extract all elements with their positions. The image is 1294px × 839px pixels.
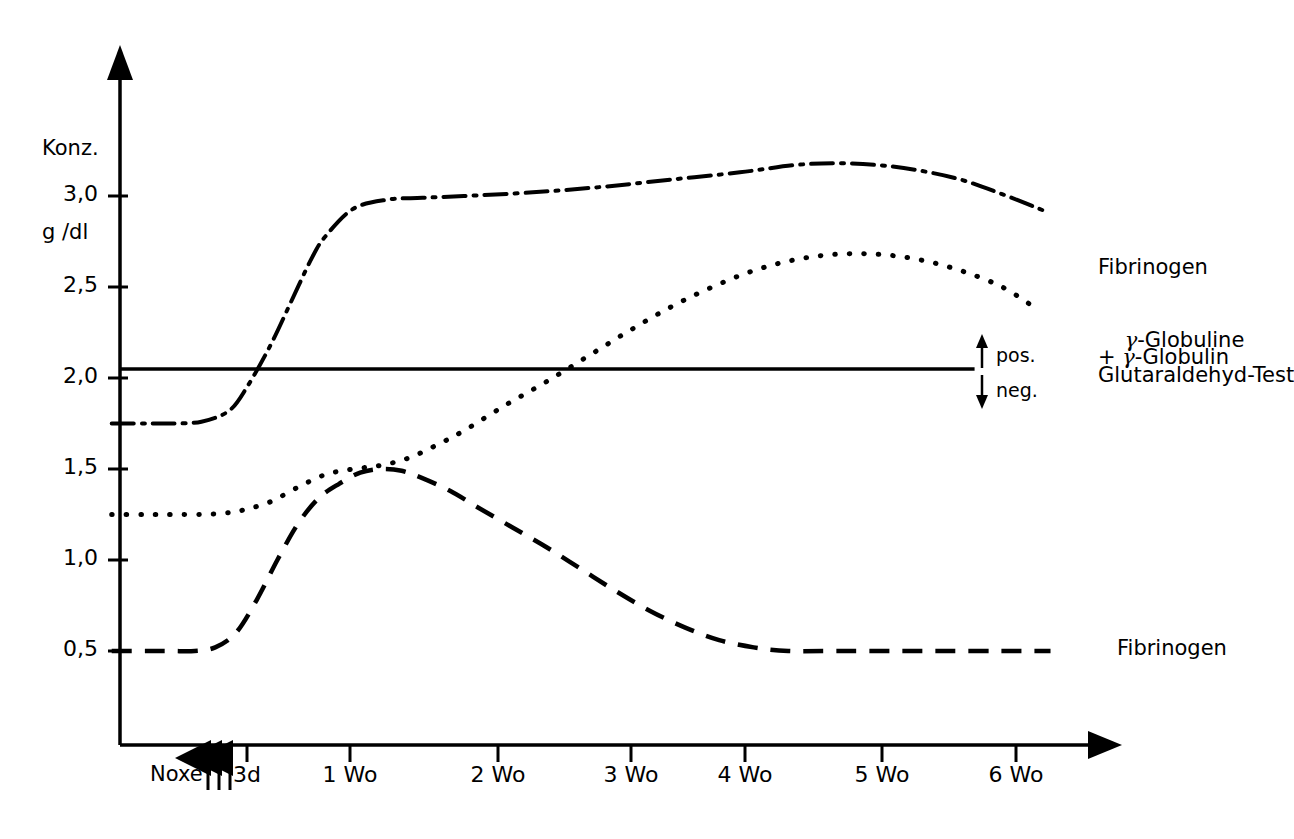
series-curves xyxy=(112,163,1051,651)
y-axis-title-line1: Konz. xyxy=(42,134,99,162)
x-tick-label-3wo: 3 Wo xyxy=(576,762,686,787)
x-axis-arrowhead xyxy=(1088,731,1122,759)
x-tick-label-1wo: 1 Wo xyxy=(295,762,405,787)
x-tick-label-4wo: 4 Wo xyxy=(690,762,800,787)
series-label-glutaraldehyd-test: Glutaraldehyd-Test xyxy=(1098,360,1294,390)
y-axis-arrowhead xyxy=(107,45,133,80)
threshold-pos-label: pos. xyxy=(996,344,1036,367)
y-tick-label-2-0: 2,0 xyxy=(38,363,98,388)
series-label-fibrinogen: Fibrinogen xyxy=(1117,633,1227,663)
arrow-up-icon xyxy=(976,334,988,348)
y-axis xyxy=(107,45,133,745)
x-tick-label-5wo: 5 Wo xyxy=(827,762,937,787)
x-axis-ticks xyxy=(247,745,1016,762)
threshold-direction-icons xyxy=(976,334,988,409)
x-tick-label-6wo: 6 Wo xyxy=(961,762,1071,787)
arrow-down-icon xyxy=(976,395,988,409)
y-tick-label-3-0: 3,0 xyxy=(38,181,98,206)
globuline-text: -Globuline xyxy=(1137,328,1244,352)
threshold-neg-label: neg. xyxy=(996,379,1038,402)
y-axis-title-line2: g /dl xyxy=(42,218,99,246)
series-label-line1: Fibrinogen xyxy=(1098,252,1229,282)
series-line-fibrinogen xyxy=(112,469,1051,651)
x-axis xyxy=(120,731,1122,759)
x-tick-label-3d: 3d xyxy=(192,762,302,787)
y-tick-label-2-5: 2,5 xyxy=(38,272,98,297)
y-tick-label-0-5: 0,5 xyxy=(38,636,98,661)
series-line-fibrinogen-plus-gamma-globulin xyxy=(112,163,1044,423)
x-tick-label-2wo: 2 Wo xyxy=(443,762,553,787)
gamma-glyph: γ xyxy=(1125,328,1138,352)
y-tick-label-1-5: 1,5 xyxy=(38,454,98,479)
y-tick-label-1-0: 1,0 xyxy=(38,545,98,570)
